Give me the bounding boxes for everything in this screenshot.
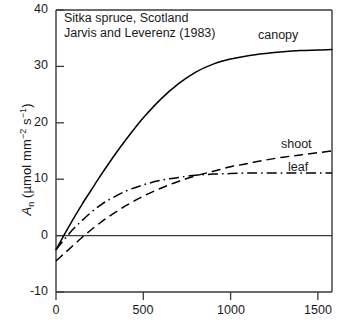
y-axis-unit-exp-minus2: −2	[18, 129, 28, 139]
y-axis-unit-close: )	[19, 103, 34, 107]
curve-label-canopy: canopy	[258, 28, 298, 42]
y-axis-label-subscript: n	[26, 202, 36, 207]
plot-annotation: Sitka spruce, Scotland Jarvis and Levere…	[64, 11, 215, 41]
y-axis-label-symbol: A	[19, 207, 34, 216]
y-tick-label-30: 30	[8, 58, 48, 72]
x-tick-label-1500: 1500	[288, 303, 344, 317]
x-tick-label-1000: 1000	[201, 303, 261, 317]
x-tick-label-500: 500	[113, 303, 173, 317]
curve-label-leaf: leaf	[288, 160, 308, 174]
y-tick-label-neg10: -10	[8, 284, 48, 298]
x-tick-label-0: 0	[26, 303, 86, 317]
annotation-line-citation: Jarvis and Leverenz (1983)	[64, 26, 215, 41]
curve-label-shoot: shoot	[281, 137, 312, 151]
chart-figure: An (µmol mm−2 s−1) Sitka spruce, Scotlan…	[0, 0, 344, 332]
y-tick-label-40: 40	[8, 2, 48, 16]
y-axis-label: An (µmol mm−2 s−1)	[18, 74, 37, 244]
y-axis-unit-m: m	[19, 139, 34, 150]
annotation-line-species: Sitka spruce, Scotland	[64, 11, 215, 26]
y-tick-label-20: 20	[8, 115, 48, 129]
y-tick-label-10: 10	[8, 171, 48, 185]
y-tick-label-0: 0	[8, 228, 48, 242]
